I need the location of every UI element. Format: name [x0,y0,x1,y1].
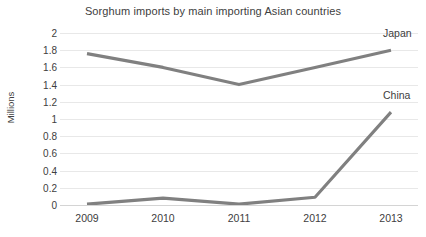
chart-title: Sorghum imports by main importing Asian … [0,5,426,17]
y-tick-label: 0.6 [3,148,57,159]
y-tick-label: 1.6 [3,62,57,73]
y-tick-label: 0.4 [3,165,57,176]
series-line-china [87,112,391,204]
y-tick-label: 2 [3,28,57,39]
y-axis-tick-labels: 00.20.40.60.811.21.41.61.82 [0,33,57,205]
x-tick-label: 2010 [133,212,193,224]
line-chart: Sorghum imports by main importing Asian … [0,0,426,237]
x-tick-label: 2009 [57,212,117,224]
series-label-china: China [383,89,410,101]
y-tick-label: 1 [3,114,57,125]
x-axis-line [60,205,418,206]
series-label-japan: Japan [383,27,412,39]
y-tick-label: 1.2 [3,96,57,107]
series-lines [60,33,418,205]
y-tick-label: 1.4 [3,79,57,90]
y-tick-label: 0 [3,200,57,211]
x-tick-label: 2012 [285,212,345,224]
series-line-japan [87,50,391,84]
x-tick-label: 2013 [361,212,421,224]
y-tick-label: 1.8 [3,45,57,56]
x-tick-label: 2011 [209,212,269,224]
plot-area [60,33,418,205]
y-tick-label: 0.8 [3,131,57,142]
y-tick-label: 0.2 [3,182,57,193]
